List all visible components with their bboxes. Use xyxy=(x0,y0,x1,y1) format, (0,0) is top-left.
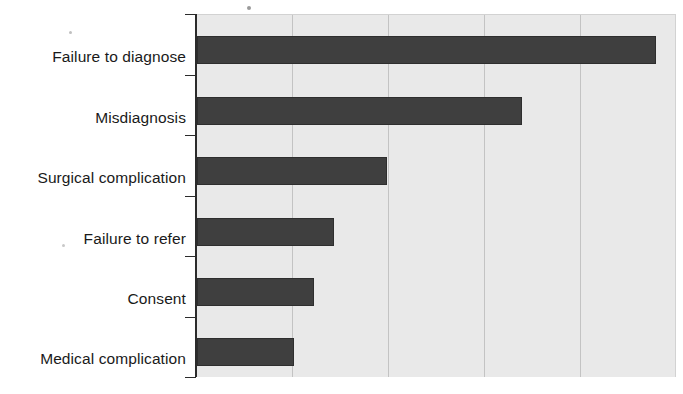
bar-medical-complication xyxy=(197,338,294,366)
bar-failure-to-diagnose xyxy=(197,36,656,64)
category-label-failure-to-diagnose: Failure to diagnose xyxy=(0,49,186,65)
scan-speck-left-upper xyxy=(69,31,72,34)
y-axis-tick-6 xyxy=(185,377,196,378)
bar-consent xyxy=(197,278,314,306)
gridline-3 xyxy=(484,15,485,377)
gridline-4 xyxy=(580,15,581,377)
y-axis-tick-3 xyxy=(185,196,196,197)
y-axis-tick-4 xyxy=(185,256,196,257)
bar-failure-to-refer xyxy=(197,218,334,246)
y-axis-tick-5 xyxy=(185,317,196,318)
y-axis-tick-0 xyxy=(185,14,196,15)
bar-misdiagnosis xyxy=(197,97,522,125)
category-axis-labels: Failure to diagnose Misdiagnosis Surgica… xyxy=(0,14,186,377)
y-axis-tick-1 xyxy=(185,75,196,76)
scan-speck-left-lower xyxy=(62,244,65,247)
plot-area xyxy=(197,14,676,377)
gridline-1 xyxy=(292,15,293,377)
bar-chart: Failure to diagnose Misdiagnosis Surgica… xyxy=(0,0,683,394)
y-axis-tick-2 xyxy=(185,135,196,136)
category-label-misdiagnosis: Misdiagnosis xyxy=(0,110,186,126)
category-label-failure-to-refer: Failure to refer xyxy=(0,231,186,247)
scan-speck-top xyxy=(247,6,251,10)
category-label-surgical-complication: Surgical complication xyxy=(0,170,186,186)
bar-surgical-complication xyxy=(197,157,387,185)
gridline-2 xyxy=(388,15,389,377)
category-label-consent: Consent xyxy=(0,291,186,307)
category-label-medical-complication: Medical complication xyxy=(0,351,186,367)
